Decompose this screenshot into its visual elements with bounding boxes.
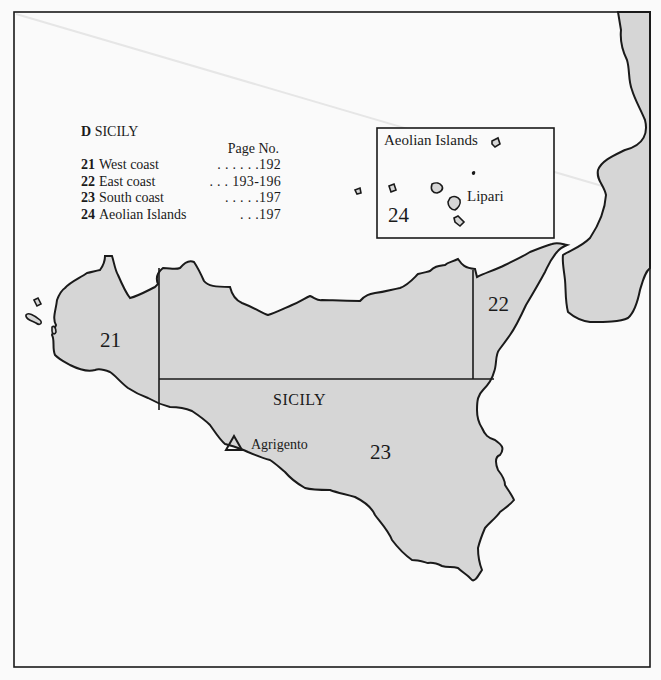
legend-title: D SICILY	[81, 124, 281, 141]
region-23-label: 23	[370, 440, 391, 465]
legend-item-number: 21	[81, 157, 95, 174]
legend-title-text: SICILY	[95, 124, 139, 139]
region-22-label: 22	[488, 292, 509, 317]
legend-item-label: West coast	[99, 157, 159, 174]
island-lipari	[448, 197, 460, 210]
legend-item-number: 23	[81, 190, 95, 207]
agrigento-label: Agrigento	[251, 437, 308, 453]
legend-item-23: 23South coast . . . . .197	[81, 190, 281, 207]
inset-title: Aeolian Islands	[384, 132, 478, 149]
legend-title-prefix: D	[81, 124, 91, 139]
legend-item-dots: . . .	[240, 207, 259, 222]
island-name-label: SICILY	[273, 391, 326, 409]
inset-lipari-label: Lipari	[467, 188, 504, 205]
legend-item-page: 197	[259, 190, 281, 205]
legend-item-dots: . . . . .	[225, 190, 259, 205]
legend-item-22: 22East coast . . . 193-196	[81, 174, 281, 191]
legend-item-dots: . . . . . .	[217, 157, 259, 172]
islet-west-3	[52, 326, 56, 333]
legend-item-number: 24	[81, 207, 95, 224]
island-filicudi	[389, 184, 396, 192]
island-salina	[431, 183, 442, 193]
legend-item-dots: . . .	[209, 174, 228, 189]
region-24-label: 24	[388, 203, 409, 228]
legend-item-label: East coast	[99, 174, 155, 191]
map-legend: D SICILY Page No. 21West coast . . . . .…	[81, 124, 281, 223]
legend-item-label: South coast	[99, 190, 164, 207]
legend-item-page: 197	[259, 207, 281, 222]
island-alicudi	[355, 188, 361, 194]
legend-item-label: Aeolian Islands	[99, 207, 186, 224]
region-21-label: 21	[100, 328, 121, 353]
legend-page-header: Page No.	[81, 141, 281, 158]
legend-item-21: 21West coast . . . . . .192	[81, 157, 281, 174]
legend-item-number: 22	[81, 174, 95, 191]
legend-item-page: 193-196	[232, 174, 281, 189]
legend-item-page: 192	[259, 157, 281, 172]
legend-item-24: 24Aeolian Islands . . .197	[81, 207, 281, 224]
